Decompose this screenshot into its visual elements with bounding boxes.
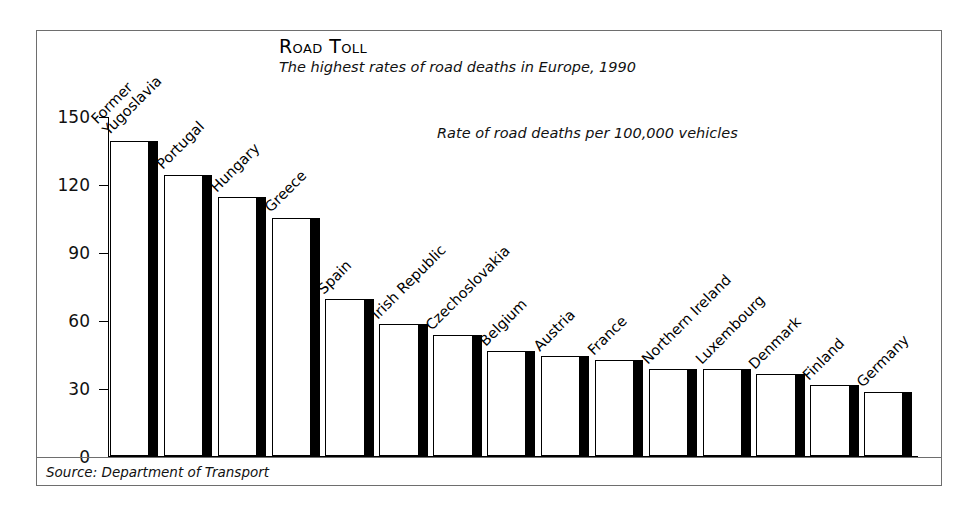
bar[interactable]: Northern Ireland (649, 369, 697, 455)
source-text: Source: Department of Transport (46, 464, 269, 480)
bar-shade (633, 361, 642, 454)
bar[interactable]: Spain (325, 299, 373, 455)
bar-series: FormerYugoslaviaPortugalHungaryGreeceSpa… (110, 116, 918, 456)
bar[interactable]: Hungary (218, 197, 266, 455)
bar-category-label-line: Denmark (746, 313, 805, 372)
bar-category-label-line: Northern Ireland (638, 272, 734, 368)
bar-shade (902, 393, 911, 454)
bar[interactable]: Germany (864, 392, 912, 455)
bar[interactable]: Austria (541, 356, 589, 456)
y-tick: 90 (99, 253, 109, 254)
bar-category-label-line: Greece (261, 168, 309, 216)
bar-shade (579, 357, 588, 455)
bar-category-label: Hungary (207, 140, 262, 195)
y-tick-label: 30 (68, 379, 90, 399)
y-tick: 60 (99, 321, 109, 322)
bar[interactable]: Luxembourg (703, 369, 751, 455)
bar-shade (148, 142, 157, 455)
y-tick-label: 120 (58, 175, 90, 195)
bar-category-label: Belgium (477, 296, 531, 350)
bar-category-label-line: Belgium (477, 296, 531, 350)
bar-category-label: Finland (800, 335, 848, 383)
bar-category-label: France (584, 313, 630, 359)
bar-shade (687, 370, 696, 454)
bar-shade (849, 386, 858, 454)
bar-category-label: FormerYugoslavia (88, 62, 165, 139)
chart-title: Road Toll (279, 37, 759, 57)
bar-shade (472, 336, 481, 454)
bar-category-label-line: Hungary (207, 140, 262, 195)
bar[interactable]: France (595, 360, 643, 455)
plot-area: 1501209060300 FormerYugoslaviaPortugalHu… (108, 117, 918, 457)
bar-shade (418, 325, 427, 454)
bar-category-label: Northern Ireland (638, 272, 734, 368)
bar[interactable]: Portugal (164, 175, 212, 456)
source-divider (37, 457, 941, 458)
bar[interactable]: Greece (272, 218, 320, 456)
bar-category-label-line: Portugal (153, 119, 207, 173)
y-tick-label: 150 (58, 107, 90, 127)
bar-category-label: Portugal (153, 119, 207, 173)
chart-subtitle: The highest rates of road deaths in Euro… (279, 59, 759, 75)
chart-figure: Road Toll The highest rates of road deat… (36, 30, 942, 486)
bar[interactable]: Belgium (487, 351, 535, 455)
y-tick: 30 (99, 389, 109, 390)
bar-category-label-line: Finland (800, 335, 848, 383)
bar-shade (795, 375, 804, 455)
bar-category-label: Greece (261, 168, 309, 216)
bar-category-label: Denmark (746, 313, 805, 372)
bar-category-label-line: Spain (315, 257, 355, 297)
bar-shade (310, 219, 319, 455)
y-tick: 120 (99, 185, 109, 186)
bar[interactable]: FormerYugoslavia (110, 141, 158, 456)
bar-shade (364, 300, 373, 454)
bar-shade (525, 352, 534, 454)
bar-category-label-line: Austria (530, 306, 578, 354)
bar-shade (202, 176, 211, 455)
bar-category-label-line: Germany (854, 332, 913, 391)
bar[interactable]: Finland (810, 385, 858, 455)
bar-shade (256, 198, 265, 454)
bar-category-label: Germany (854, 332, 913, 391)
bar[interactable]: Denmark (756, 374, 804, 456)
bar-category-label: Austria (530, 306, 578, 354)
bar-category-label: Spain (315, 257, 355, 297)
title-block: Road Toll The highest rates of road deat… (279, 37, 759, 75)
bar[interactable]: Irish Republic (379, 324, 427, 455)
y-tick-label: 90 (68, 243, 90, 263)
y-tick-label: 60 (68, 311, 90, 331)
bar[interactable]: Czechoslovakia (433, 335, 481, 455)
bar-category-label-line: France (584, 313, 630, 359)
bar-shade (741, 370, 750, 454)
